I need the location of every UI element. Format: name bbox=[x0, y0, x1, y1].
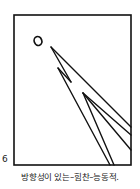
figure-number: 6 bbox=[2, 154, 8, 164]
drawing-canvas bbox=[0, 0, 140, 189]
directional-lines bbox=[51, 47, 131, 165]
line-upper-long bbox=[51, 47, 131, 127]
drawing-frame bbox=[14, 15, 131, 165]
line-lower-bottom bbox=[83, 93, 114, 165]
line-lower-right-2 bbox=[83, 93, 131, 150]
figure: 6 방향성이 있는–힘찬–능동적. bbox=[0, 0, 140, 189]
figure-caption: 방향성이 있는–힘찬–능동적. bbox=[0, 171, 140, 183]
circle-shape bbox=[33, 35, 43, 46]
